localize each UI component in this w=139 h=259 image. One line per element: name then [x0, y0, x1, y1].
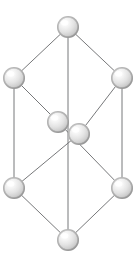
node-sphere-highlight [51, 115, 58, 121]
graph-node[interactable]: lower right vertex [111, 177, 133, 199]
node-sphere-highlight [61, 20, 68, 26]
graph-edge [14, 27, 68, 78]
node-sphere-rim [111, 177, 133, 199]
graph-node[interactable]: upper right vertex [111, 67, 133, 89]
graph-node[interactable]: bottom vertex [57, 229, 79, 251]
graph-edge [68, 27, 122, 78]
node-sphere-rim [47, 111, 69, 133]
node-sphere-highlight [72, 127, 79, 133]
graph-edge [68, 188, 122, 240]
graph-node[interactable]: top vertex [57, 16, 79, 38]
graph-edge [14, 188, 68, 240]
node-sphere-rim [3, 177, 25, 199]
node-sphere-highlight [7, 71, 14, 77]
node-sphere-highlight [7, 181, 14, 187]
node-sphere-rim [111, 67, 133, 89]
edges-layer [14, 27, 122, 240]
node-sphere-rim [57, 229, 79, 251]
graph-node[interactable]: upper left vertex [3, 67, 25, 89]
graph-node[interactable]: lower left vertex [3, 177, 25, 199]
graph-node[interactable]: center left vertex [47, 111, 69, 133]
node-sphere-rim [57, 16, 79, 38]
node-sphere-highlight [115, 71, 122, 77]
graph-node[interactable]: center right vertex [68, 123, 90, 145]
node-sphere-highlight [61, 233, 68, 239]
graph-edge [14, 134, 79, 188]
node-sphere-rim [3, 67, 25, 89]
node-sphere-rim [68, 123, 90, 145]
graph-canvas: top vertexupper left vertexupper right v… [0, 0, 139, 259]
node-sphere-highlight [115, 181, 122, 187]
graph-diagram: top vertexupper left vertexupper right v… [0, 0, 139, 259]
